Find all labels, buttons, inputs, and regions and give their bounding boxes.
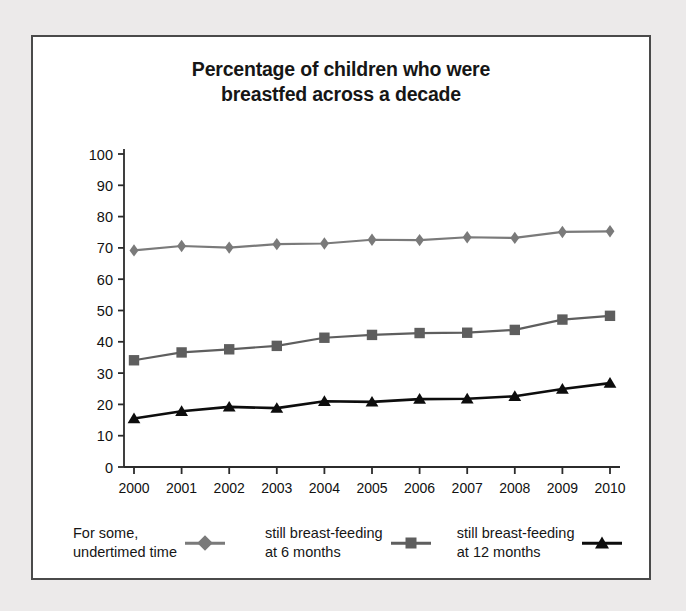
x-tick-label: 2003 xyxy=(261,480,292,496)
series-diamond xyxy=(130,225,615,256)
x-tick-label: 2010 xyxy=(594,480,625,496)
data-point-diamond xyxy=(463,231,472,243)
x-tick-label: 2007 xyxy=(452,480,483,496)
data-point-square xyxy=(414,328,424,338)
y-tick-label: 50 xyxy=(97,303,113,319)
y-tick-label: 0 xyxy=(105,460,113,476)
data-point-diamond xyxy=(130,244,139,256)
data-point-diamond xyxy=(225,241,234,253)
x-tick-label: 2006 xyxy=(404,480,435,496)
data-point-diamond xyxy=(415,234,424,246)
chart-legend: For some, undertimed timestill breast-fe… xyxy=(73,524,633,572)
data-point-square xyxy=(557,314,567,324)
legend-label: still breast-feeding at 12 months xyxy=(457,524,575,562)
x-tick-label: 2008 xyxy=(499,480,530,496)
legend-marker-square-icon xyxy=(389,534,433,552)
series-triangle xyxy=(128,377,617,423)
data-point-diamond xyxy=(320,237,329,249)
y-tick-label: 100 xyxy=(89,147,113,163)
y-tick-label: 60 xyxy=(97,272,113,288)
x-tick-label: 2005 xyxy=(356,480,387,496)
page-root: Percentage of children who were breastfe… xyxy=(0,0,686,611)
data-point-diamond xyxy=(272,238,281,250)
x-tick-label: 2001 xyxy=(166,480,197,496)
x-tick-label: 2000 xyxy=(118,480,149,496)
y-tick-label: 20 xyxy=(97,397,113,413)
y-tick-label: 30 xyxy=(97,366,113,382)
legend-marker-diamond-icon xyxy=(183,534,227,552)
data-point-diamond xyxy=(558,226,567,238)
legend-marker-triangle-icon xyxy=(580,534,624,552)
legend-marker-shape xyxy=(405,538,416,549)
legend-item-diamond[interactable]: For some, undertimed time xyxy=(73,524,265,562)
data-point-square xyxy=(176,347,186,357)
data-point-square xyxy=(319,333,329,343)
data-point-square xyxy=(224,344,234,354)
series-square xyxy=(129,311,615,366)
y-tick-label: 70 xyxy=(97,240,113,256)
legend-item-square[interactable]: still breast-feeding at 6 months xyxy=(265,524,457,562)
legend-marker-shape xyxy=(595,537,609,549)
legend-label: still breast-feeding at 6 months xyxy=(265,524,383,562)
x-tick-label: 2009 xyxy=(547,480,578,496)
line-chart-svg: 0102030405060708090100200020012002200320… xyxy=(33,37,653,582)
x-tick-label: 2004 xyxy=(309,480,340,496)
data-point-square xyxy=(510,325,520,335)
legend-item-triangle[interactable]: still breast-feeding at 12 months xyxy=(457,524,633,562)
data-point-diamond xyxy=(510,232,519,244)
y-tick-label: 10 xyxy=(97,428,113,444)
data-point-diamond xyxy=(368,234,377,246)
data-point-diamond xyxy=(606,225,615,237)
x-tick-label: 2002 xyxy=(214,480,245,496)
data-point-diamond xyxy=(177,240,186,252)
data-point-square xyxy=(605,311,615,321)
y-tick-label: 80 xyxy=(97,209,113,225)
data-point-square xyxy=(129,355,139,365)
chart-frame: Percentage of children who were breastfe… xyxy=(31,35,651,580)
y-tick-label: 40 xyxy=(97,334,113,350)
y-tick-label: 90 xyxy=(97,178,113,194)
data-point-square xyxy=(272,341,282,351)
data-point-square xyxy=(367,330,377,340)
legend-marker-shape xyxy=(197,535,213,551)
plot-area: 0102030405060708090100200020012002200320… xyxy=(33,37,653,582)
data-point-square xyxy=(462,328,472,338)
legend-label: For some, undertimed time xyxy=(73,524,177,562)
